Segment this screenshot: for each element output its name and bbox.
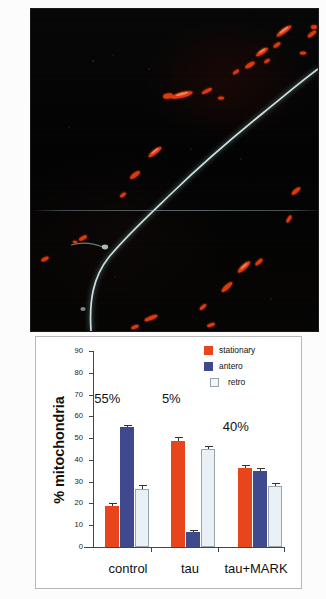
bar-tau-stationary xyxy=(171,441,185,547)
bar-chart-panel: % mitochondria 0102030405060708090 55%5%… xyxy=(35,336,302,589)
error-bar-cap xyxy=(190,530,198,531)
x-axis-tick xyxy=(218,548,219,552)
error-bar-cap xyxy=(175,437,183,438)
legend-swatch-antero xyxy=(204,362,213,371)
annotation-5pct: 5% xyxy=(162,391,181,406)
bar-tau-MARK-retro xyxy=(268,486,282,547)
bar-tau-retro xyxy=(201,449,215,547)
error-bar-cap xyxy=(139,485,147,486)
legend-item-stationary: stationary xyxy=(204,343,296,357)
x-axis-tick xyxy=(151,548,152,552)
y-tick-mark xyxy=(89,547,93,548)
legend-item-retro: retro xyxy=(204,375,296,389)
error-bar-cap xyxy=(272,483,280,484)
annotation-40pct: 40% xyxy=(223,419,249,434)
x-axis-line xyxy=(84,547,285,548)
x-label-control: control xyxy=(98,561,158,576)
chart-legend: stationaryanteroretro xyxy=(204,343,296,391)
error-bar-cap xyxy=(242,465,250,466)
micrograph-features xyxy=(31,9,318,331)
legend-swatch-stationary xyxy=(204,346,213,355)
axon-trace xyxy=(71,69,318,331)
legend-swatch-retro xyxy=(210,378,219,387)
micrograph-panel xyxy=(31,9,318,331)
x-axis-tick xyxy=(284,548,285,552)
bar-tau-antero xyxy=(186,532,200,547)
error-bar-cap xyxy=(124,425,132,426)
legend-label-stationary: stationary xyxy=(219,345,255,355)
bar-control-retro xyxy=(135,489,149,547)
bar-control-antero xyxy=(120,427,134,547)
error-bar-cap xyxy=(257,468,265,469)
mitochondria-puncta xyxy=(41,24,318,330)
legend-label-antero: antero xyxy=(219,361,243,371)
error-bar-cap xyxy=(205,446,213,447)
figure-root: % mitochondria 0102030405060708090 55%5%… xyxy=(0,0,326,599)
annotation-55pct: 55% xyxy=(94,391,120,406)
bar-tau-MARK-stationary xyxy=(238,468,252,547)
legend-item-antero: antero xyxy=(204,359,296,373)
plot-area: % mitochondria 0102030405060708090 55%5%… xyxy=(36,337,301,588)
x-label-tau: tau xyxy=(170,561,210,576)
bar-tau-MARK-antero xyxy=(253,471,267,547)
bar-control-stationary xyxy=(105,506,119,547)
micrograph-scanline-artifact xyxy=(31,210,318,211)
legend-label-retro: retro xyxy=(228,377,245,387)
x-label-tau-MARK: tau+MARK xyxy=(210,561,302,576)
error-bar-cap xyxy=(109,503,117,504)
micrograph-specks xyxy=(68,54,271,300)
